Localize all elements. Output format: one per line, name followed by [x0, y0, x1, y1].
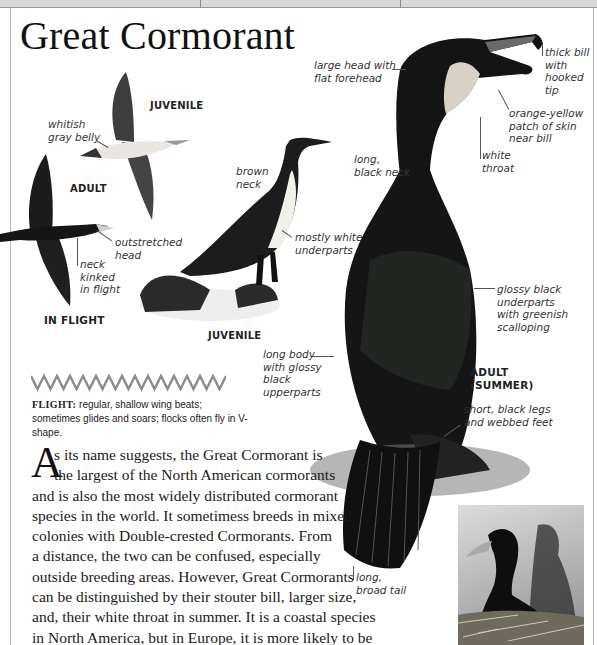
header-divider [200, 0, 201, 8]
leader-line [312, 356, 334, 357]
label-whitish-gray-belly: whitish gray belly [48, 118, 100, 143]
juvenile-standing-caption: JUVENILE [208, 330, 261, 341]
label-orange-yellow-patch: orange-yellow patch of skin near bill [509, 107, 583, 145]
flight-description: FLIGHT: regular, shallow wing beats; som… [32, 398, 252, 440]
label-white-throat: white throat [482, 149, 514, 174]
label-neck-kinked: neck kinked in flight [80, 258, 120, 296]
label-brown-neck: brown neck [236, 165, 269, 190]
juvenile-flight-caption: JUVENILE [150, 100, 203, 111]
header-strip [0, 0, 597, 8]
flight-label: FLIGHT: [32, 399, 76, 410]
adult-flight-caption: ADULT [70, 183, 107, 194]
label-thick-bill: thick bill with hooked tip [545, 46, 589, 96]
body-paragraph: s its name suggests, the Great Cormorant… [32, 445, 462, 645]
page-border [10, 8, 11, 645]
cormorant-on-nest-photo [458, 505, 584, 645]
leader-line [392, 69, 406, 70]
page-border [593, 8, 594, 645]
leader-line [77, 238, 78, 266]
header-divider [400, 0, 401, 8]
adult-summer-caption: ADULT (SUMMER) [470, 366, 533, 392]
in-flight-caption: IN FLIGHT [44, 314, 105, 327]
zigzag-flight-pattern-icon [31, 372, 226, 392]
leader-line [474, 288, 495, 289]
leader-line [542, 42, 543, 56]
leader-line [480, 117, 481, 159]
label-large-head: large head with flat forehead [314, 59, 396, 84]
label-legs-feet: short, black legs and webbed feet [464, 403, 553, 428]
label-long-black-neck: long, black neck [354, 153, 410, 178]
label-glossy-underparts: glossy black underparts with greenish sc… [497, 283, 568, 333]
page-title: Great Cormorant [20, 12, 295, 59]
